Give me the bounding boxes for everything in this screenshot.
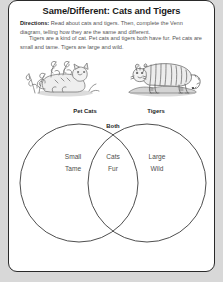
venn-label-center: Both bbox=[93, 123, 133, 129]
venn-items-right: Large Wild bbox=[131, 151, 183, 175]
directions-label: Directions: bbox=[20, 20, 49, 26]
venn-items-left: Small Tame bbox=[47, 151, 99, 175]
worksheet-page: Same/Different: Cats and Tigers Directio… bbox=[8, 0, 215, 272]
venn-items-center: Cats Fur bbox=[93, 151, 133, 175]
venn-diagram: Pet Cats Tigers Both Small Tame Cats Fur… bbox=[9, 99, 215, 271]
venn-label-right: Tigers bbox=[133, 108, 179, 114]
tiger-illustration bbox=[117, 47, 209, 99]
venn-circle-right bbox=[88, 124, 206, 242]
venn-circle-left bbox=[20, 124, 138, 242]
venn-label-left: Pet Cats bbox=[57, 108, 113, 114]
illustration-row bbox=[9, 47, 215, 99]
cat-illustration bbox=[21, 47, 105, 99]
page-title: Same/Different: Cats and Tigers bbox=[9, 6, 214, 16]
